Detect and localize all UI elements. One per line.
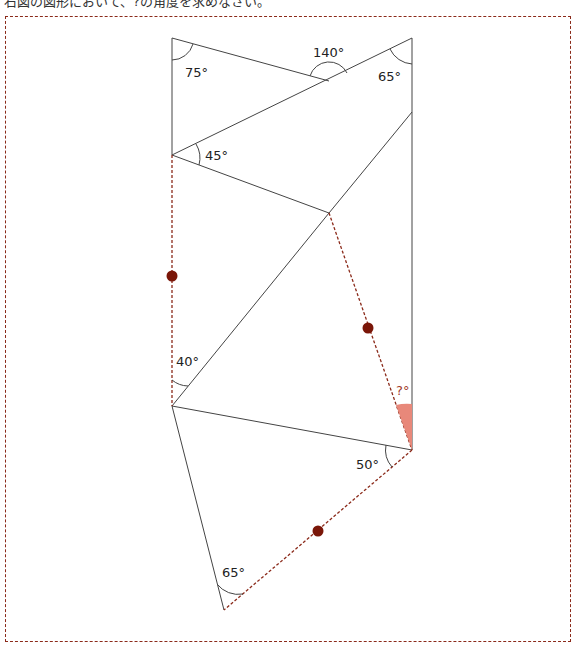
midpoint-dots (167, 271, 374, 537)
angle-label-140: 140° (313, 45, 344, 60)
midpoint-dot (363, 323, 374, 334)
angle-label-65-top: 65° (378, 69, 401, 84)
midpoint-dot (313, 526, 324, 537)
geometry-diagram: 75° 140° 65° 45° 40° 50° 65° ?° (0, 0, 576, 648)
angle-label-65-bottom: 65° (222, 565, 245, 580)
dashed-lines (172, 155, 412, 610)
unknown-angle-highlight (396, 404, 412, 450)
angle-label-40: 40° (176, 354, 199, 369)
angle-label-75: 75° (185, 65, 208, 80)
angle-label-50: 50° (356, 457, 379, 472)
angle-arcs (172, 44, 412, 594)
solid-lines (172, 38, 412, 610)
angle-label-45: 45° (205, 148, 228, 163)
midpoint-dot (167, 271, 178, 282)
unknown-angle-label: ?° (396, 383, 409, 398)
